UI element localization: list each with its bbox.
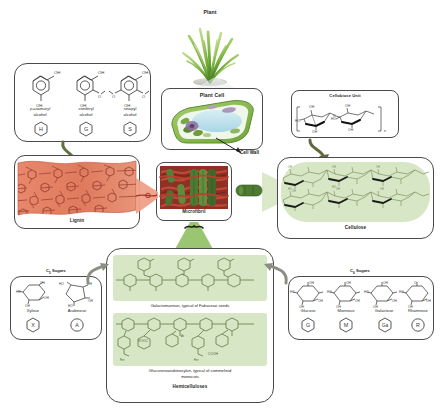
- svg-text:A: A: [75, 322, 79, 328]
- microfibril-label: Microfibril: [156, 210, 232, 215]
- lignin-sheet: [17, 158, 137, 220]
- glucose-structure: OH HO OH OH: [292, 281, 328, 309]
- svg-text:OH: OH: [142, 70, 148, 75]
- c6-sugars-title: C6 Sugars: [286, 268, 434, 275]
- microfibril-to-cellulose-fan: [232, 170, 280, 214]
- lignin-to-microfibril-wedge: [136, 176, 160, 216]
- monolignol-code-0: H: [33, 121, 49, 137]
- c6-sugar-code-1: M: [338, 317, 354, 333]
- glucuronoarabinoxylan-structure: ROOC COOH Fer Fer Ar: [116, 315, 264, 364]
- c6-sugar-code-2: Ga: [376, 317, 394, 333]
- svg-text:S: S: [128, 126, 132, 132]
- svg-text:OH: OH: [288, 165, 292, 169]
- monolignol-name-2-line1: sinapyl: [104, 107, 156, 112]
- monolignol-name-0-line1: p-coumaryl: [14, 107, 66, 112]
- svg-text:O: O: [142, 94, 145, 99]
- svg-text:OH: OH: [392, 299, 397, 303]
- svg-text:HO: HO: [295, 119, 300, 123]
- arrow-c5-to-hemicelluloses: [84, 259, 112, 285]
- svg-text:Ga: Ga: [382, 322, 389, 328]
- svg-text:HO: HO: [332, 185, 336, 189]
- cellobiose-structure: OH OH HO HO OH OH O n: [296, 103, 394, 135]
- svg-text:OH: OH: [88, 299, 93, 303]
- c5-sugar-name-1: Arabinose: [56, 309, 98, 314]
- svg-text:G: G: [84, 126, 88, 132]
- svg-text:OH: OH: [318, 299, 323, 303]
- svg-text:Ar: Ar: [181, 334, 184, 338]
- svg-text:X: X: [31, 322, 35, 328]
- svg-text:HO: HO: [364, 290, 369, 294]
- arrow-c6-to-hemicelluloses: [258, 259, 290, 285]
- hemicelluloses-label: Hemicelluloses: [106, 385, 274, 390]
- c6-sugar-name-3: Rhamnose: [396, 309, 440, 314]
- svg-text:COOH: COOH: [208, 352, 219, 356]
- c6-sugar-code-0: G: [300, 317, 316, 333]
- svg-text:HO: HO: [59, 282, 64, 286]
- galactose-structure: OH HO OH OH: [366, 281, 402, 309]
- svg-text:OH: OH: [54, 70, 60, 75]
- monolignol-name-0-line2: alcohol: [14, 113, 66, 118]
- svg-text:OH: OH: [44, 296, 49, 300]
- glucuronoarabinoxylan-caption-line2: monocots: [106, 375, 274, 380]
- monolignol-structure-1: OH OH O: [68, 68, 112, 110]
- svg-text:OH: OH: [380, 187, 384, 191]
- svg-text:OH: OH: [332, 165, 336, 169]
- svg-text:HO: HO: [327, 290, 332, 294]
- c6-sugar-name-0: Glucose: [288, 309, 328, 314]
- svg-text:OH: OH: [312, 130, 318, 134]
- c6-title-suffix: Sugars: [355, 268, 370, 273]
- lignin-label: Lignin: [14, 219, 140, 224]
- svg-text:R: R: [416, 322, 420, 328]
- svg-text:OH: OH: [336, 187, 340, 191]
- svg-text:HO: HO: [399, 290, 404, 294]
- monolignol-structure-0: OH OH: [24, 68, 64, 110]
- svg-text:OH: OH: [355, 299, 360, 303]
- svg-text:O: O: [98, 94, 101, 99]
- svg-text:OH: OH: [40, 281, 45, 285]
- svg-text:n: n: [384, 129, 386, 133]
- glucuronoarabinoxylan-caption-line1: Glucuronoarabinoxylan, typical of commel…: [106, 369, 274, 374]
- cell-wall-pointer: [216, 138, 250, 158]
- microfibril-illustration: [160, 166, 228, 209]
- svg-text:M: M: [344, 322, 349, 328]
- svg-text:HO: HO: [290, 290, 295, 294]
- svg-text:Fer: Fer: [194, 358, 199, 362]
- svg-text:G: G: [306, 322, 310, 328]
- c5-sugar-code-1: A: [69, 317, 85, 333]
- c5-title-suffix: Sugars: [51, 268, 66, 273]
- c6-sugar-name-1: Mannose: [325, 309, 367, 314]
- svg-text:OH: OH: [98, 70, 104, 75]
- svg-text:OH: OH: [346, 281, 351, 285]
- svg-text:H: H: [39, 126, 43, 132]
- monolignol-code-2: S: [122, 121, 138, 137]
- svg-text:OH: OH: [309, 105, 315, 109]
- xylose-structure: OH HO OH OH: [17, 281, 57, 309]
- monolignol-name-2-line2: alcohol: [104, 113, 156, 118]
- svg-text:OH: OH: [348, 128, 354, 132]
- svg-text:OH: OH: [376, 165, 380, 169]
- svg-text:HO: HO: [331, 117, 336, 121]
- svg-text:OH: OH: [383, 281, 388, 285]
- diagram-canvas: Plant: [0, 0, 440, 411]
- svg-text:OH: OH: [426, 299, 431, 303]
- c6-sugar-code-3: R: [410, 317, 426, 333]
- c5-sugar-code-0: X: [25, 317, 41, 333]
- galactomannan-structure: [116, 257, 264, 299]
- monolignol-code-1: G: [78, 121, 94, 137]
- rhamnose-structure: O HO OH OH: [401, 281, 435, 309]
- svg-text:ROOC: ROOC: [138, 339, 149, 343]
- svg-text:O: O: [414, 281, 417, 285]
- svg-text:Fer: Fer: [120, 358, 125, 362]
- svg-text:HO: HO: [288, 187, 292, 191]
- plant-label: Plant: [170, 10, 250, 15]
- mannose-structure: OH HO OH OH: [329, 281, 365, 309]
- monolignol-structure-2: OH OH O O: [108, 68, 154, 110]
- svg-text:O: O: [112, 94, 115, 99]
- arabinose-structure: HO OH OH HO: [57, 281, 99, 309]
- cellulose-structure: OHOHOH OHOHOH HOHO: [283, 164, 429, 220]
- cellobiose-label: Cellobiose Unit: [291, 94, 399, 98]
- svg-text:OH: OH: [345, 104, 351, 108]
- cell-wall-label: Cell Wall: [240, 150, 259, 155]
- galactomannan-caption: Galactomannan, typical of Fabaceae seeds: [106, 304, 274, 309]
- svg-text:OH: OH: [292, 189, 296, 193]
